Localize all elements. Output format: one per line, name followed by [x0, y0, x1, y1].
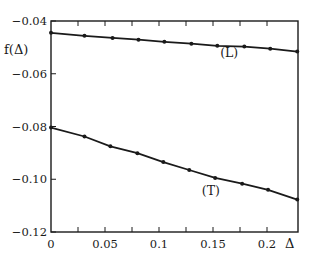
data-point	[82, 135, 86, 139]
x-tick-label: 0.2	[258, 237, 276, 251]
plot-border	[51, 21, 298, 232]
series-label: (L)	[220, 45, 238, 60]
data-point	[161, 160, 165, 164]
data-point	[242, 45, 246, 49]
data-point	[213, 176, 217, 180]
line-chart: 00.050.10.150.2 −0.04−0.06−0.08−0.10−0.1…	[0, 0, 312, 259]
data-point	[268, 47, 272, 51]
data-point	[49, 31, 53, 35]
y-tick-label: −0.04	[12, 14, 47, 28]
series-line	[51, 33, 297, 52]
data-series: (L)(T)	[49, 31, 299, 202]
data-point	[187, 168, 191, 172]
x-axis-label: Δ	[285, 236, 294, 251]
data-point	[49, 126, 53, 130]
y-axis-label: f(Δ)	[4, 42, 28, 57]
y-tick-label: −0.06	[12, 67, 47, 81]
data-point	[240, 182, 244, 186]
y-tick-label: −0.08	[12, 120, 47, 134]
plot-frame	[51, 21, 298, 232]
data-point	[215, 44, 219, 48]
x-tick-label: 0	[47, 237, 54, 251]
data-point	[135, 151, 139, 155]
data-point	[189, 42, 193, 46]
y-tick-label: −0.12	[12, 225, 47, 239]
x-tick-label: 0.15	[200, 237, 226, 251]
data-point	[82, 34, 86, 38]
x-tick-label: 0.1	[150, 237, 168, 251]
data-point	[295, 50, 299, 54]
data-point	[136, 38, 140, 42]
data-point	[295, 198, 299, 202]
data-point	[108, 144, 112, 148]
x-tick-label: 0.05	[92, 237, 118, 251]
data-point	[266, 188, 270, 192]
series-line	[51, 128, 297, 200]
y-tick-label: −0.10	[12, 172, 47, 186]
series-label: (T)	[202, 183, 220, 198]
data-point	[162, 40, 166, 44]
data-point	[111, 36, 115, 40]
